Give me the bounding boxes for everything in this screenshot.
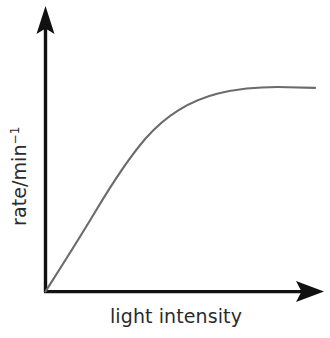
y-axis-label-text: rate/min: [8, 144, 30, 226]
x-axis-label: light intensity: [0, 307, 330, 326]
rate-vs-light-intensity-curve: [46, 87, 316, 291]
y-axis-label-exponent: −1: [8, 126, 22, 144]
chart-figure: light intensity rate/min−1: [0, 0, 330, 338]
plot-area: [0, 0, 330, 338]
y-axis-label: rate/min−1: [10, 76, 36, 226]
